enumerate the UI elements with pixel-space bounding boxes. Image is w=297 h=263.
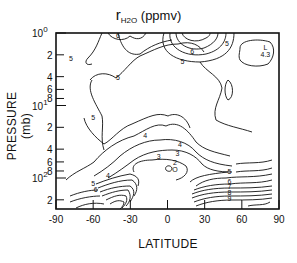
contour-lines — [66, 33, 274, 209]
contour-label: 5 — [69, 55, 73, 62]
x-tick-label: -30 — [123, 214, 138, 225]
y-tick-label: 8 — [47, 93, 53, 104]
contour-label: 4 — [143, 132, 147, 139]
contour-label: 3 — [175, 150, 179, 157]
contour-label: 5 — [225, 40, 229, 47]
x-tick-label: 90 — [273, 214, 285, 225]
contour-label: O — [172, 166, 178, 173]
contour-plot: 100101102246824682 -90-60-300306090 6555… — [0, 0, 297, 263]
y-tick-label: 4 — [47, 144, 53, 155]
y-tick-label: 2 — [47, 195, 53, 206]
x-axis-tick-labels: -90-60-300306090 — [49, 214, 285, 225]
x-tick-label: -60 — [86, 214, 101, 225]
contour-label: L — [263, 44, 267, 51]
x-tick-label: 0 — [165, 214, 171, 225]
y-tick-label: 2 — [47, 122, 53, 133]
x-tick-label: 30 — [199, 214, 211, 225]
contour-label: 4 — [106, 172, 110, 179]
contour-label: 2 — [173, 159, 177, 166]
y-tick-label: 102 — [32, 170, 48, 184]
y-tick-label: 8 — [47, 166, 53, 177]
y-tick-label: 2 — [47, 50, 53, 61]
contour-label: 5 — [116, 74, 120, 81]
contour-label: 6 — [190, 48, 194, 55]
y-axis-tick-labels: 100101102246824682 — [32, 25, 53, 206]
contour-label: 5 — [227, 168, 231, 175]
contour-label: 9 — [227, 195, 231, 202]
y-axis-ticks — [56, 33, 66, 200]
y-tick-label: 101 — [32, 98, 48, 112]
y-tick-label: 4 — [47, 72, 53, 83]
contour-label: 6 — [94, 186, 98, 193]
contour-label: 4 — [178, 141, 182, 148]
x-tick-label: 60 — [236, 214, 248, 225]
contour-label: 4.3 — [261, 51, 271, 58]
contour-label: 5 — [180, 58, 184, 65]
x-tick-label: -90 — [49, 214, 64, 225]
contour-label: 6 — [116, 32, 120, 39]
x-axis-ticks — [56, 200, 279, 209]
y-tick-label: 100 — [32, 25, 48, 39]
contour-label: 3 — [157, 153, 161, 160]
contour-label: 5 — [91, 114, 95, 121]
